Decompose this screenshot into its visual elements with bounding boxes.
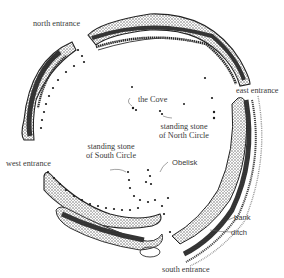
label-standing-stone-south-line2: of South Circle bbox=[80, 151, 142, 160]
label-bank: bank bbox=[234, 213, 250, 222]
label-west-entrance: west entrance bbox=[6, 159, 51, 168]
southwest-bank-segment bbox=[44, 172, 163, 257]
label-east-entrance: east entrance bbox=[236, 86, 279, 95]
label-north-entrance: north entrance bbox=[33, 19, 80, 28]
label-ditch: ditch bbox=[231, 228, 247, 237]
south-circle-stones bbox=[127, 169, 156, 203]
northwest-bank-segment bbox=[22, 42, 76, 140]
label-south-entrance: south entrance bbox=[162, 265, 210, 274]
label-standing-stone-south-circle: standing stone of South Circle bbox=[80, 142, 142, 160]
label-standing-stone-south-line1: standing stone bbox=[80, 142, 142, 151]
label-obelisk: Obelisk bbox=[172, 158, 197, 167]
northeast-bank-segment bbox=[88, 14, 250, 86]
label-standing-stone-north-circle: standing stone of North Circle bbox=[154, 122, 214, 140]
label-the-cove: the Cove bbox=[138, 95, 167, 104]
label-standing-stone-north-line2: of North Circle bbox=[154, 131, 214, 140]
label-standing-stone-north-line1: standing stone bbox=[154, 122, 214, 131]
henge-diagram: north entrance east entrance west entran… bbox=[0, 0, 284, 278]
